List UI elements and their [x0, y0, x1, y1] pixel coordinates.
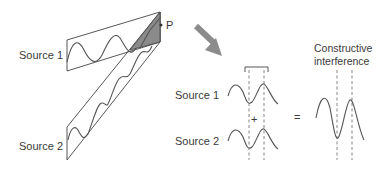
- right-source1-wave: [228, 84, 278, 104]
- right-source1-label: Source 1: [175, 89, 219, 101]
- wavelength-bracket: [245, 67, 268, 72]
- right-source2-label: Source 2: [175, 135, 219, 147]
- plus-sign: +: [251, 113, 257, 125]
- result-title-line1: Constructive: [314, 42, 373, 54]
- right-source2-wave: [228, 129, 278, 149]
- left-source1-label: Source 1: [19, 49, 63, 61]
- result-title-line2: interference: [314, 55, 370, 67]
- interference-diagram: P Source 1 Source 2 Source 1 Source 2 + …: [0, 0, 389, 172]
- constructive-result-wave: [316, 98, 364, 140]
- arrow-down-right-icon: [196, 26, 222, 56]
- point-p-label: P: [166, 19, 173, 31]
- equals-sign: =: [294, 111, 300, 123]
- left-source2-label: Source 2: [19, 140, 63, 152]
- overlap-shading: [130, 12, 160, 50]
- point-p-dot: [160, 24, 163, 27]
